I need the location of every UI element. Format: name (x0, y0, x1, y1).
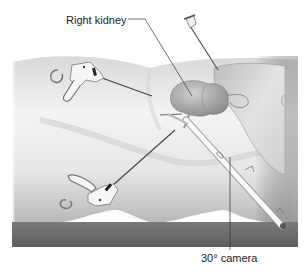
operating-table (12, 222, 298, 247)
right-kidney (170, 81, 228, 116)
illustration: Right kidney 30° camera (0, 0, 304, 272)
camera-label: 30° camera (201, 253, 257, 264)
laparoscopy-diagram (0, 0, 304, 272)
right-kidney-label: Right kidney (66, 15, 127, 26)
